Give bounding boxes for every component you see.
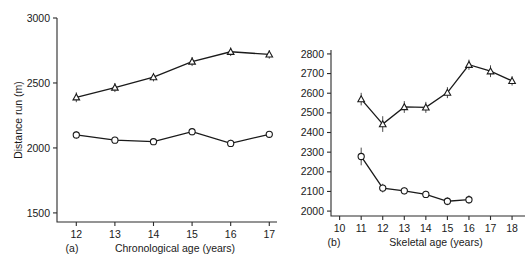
x-axis-tick-label: 14: [420, 222, 432, 234]
data-point-circle: [466, 197, 472, 203]
series-line-1: [76, 52, 269, 97]
y-axis-tick-label: 2300: [301, 146, 325, 158]
x-axis-tick-label: 12: [377, 222, 389, 234]
x-axis-tick-label: 16: [225, 228, 237, 240]
x-axis-title: Chronological age (years): [115, 242, 235, 254]
x-axis-tick-label: 13: [398, 222, 410, 234]
y-axis-tick-label: 2500: [301, 106, 325, 118]
x-axis-tick-label: 12: [70, 228, 82, 240]
panel-letter: (b): [328, 236, 341, 248]
data-point-circle: [73, 132, 79, 138]
data-point-circle: [150, 139, 156, 145]
data-point-circle: [228, 140, 234, 146]
x-axis-tick-label: 18: [506, 222, 518, 234]
y-axis-tick-label: 2400: [301, 126, 325, 138]
x-axis-tick-label: 13: [109, 228, 121, 240]
y-axis-tick-label: 2000: [27, 142, 51, 154]
panel-b-svg: 2000210022002300240025002600270028001011…: [266, 0, 532, 268]
y-axis-tick-label: 2700: [301, 67, 325, 79]
data-point-circle: [380, 185, 386, 191]
x-axis-tick-label: 16: [463, 222, 475, 234]
data-point-circle: [189, 129, 195, 135]
y-axis-tick-label: 2200: [301, 165, 325, 177]
chart-panel-a: 1500200025003000121314151617Chronologica…: [0, 0, 280, 268]
panel-a-svg: 1500200025003000121314151617Chronologica…: [0, 0, 280, 268]
chart-panel-b: 2000210022002300240025002600270028001011…: [266, 0, 532, 268]
series-line-2: [361, 156, 469, 201]
x-axis-tick-label: 11: [356, 222, 367, 234]
data-point-circle: [358, 153, 364, 159]
axis-lines: [331, 50, 525, 216]
x-axis-tick-label: 15: [442, 222, 454, 234]
y-axis-tick-label: 2800: [301, 48, 325, 60]
figure-container: 1500200025003000121314151617Chronologica…: [0, 0, 532, 268]
data-point-triangle: [466, 61, 473, 67]
x-axis-tick-label: 15: [186, 228, 198, 240]
data-point-circle: [444, 198, 450, 204]
panel-letter: (a): [66, 242, 79, 254]
y-axis-tick-label: 2100: [301, 185, 325, 197]
data-point-circle: [423, 191, 429, 197]
footer-note: [6, 261, 526, 268]
y-axis-tick-label: 2500: [27, 77, 51, 89]
x-axis-tick-label: 14: [148, 228, 160, 240]
data-point-circle: [401, 188, 407, 194]
y-axis-tick-label: 3000: [27, 12, 51, 24]
y-axis-title: Distance run (m): [12, 81, 24, 159]
axis-lines: [57, 18, 277, 222]
y-axis-tick-label: 2000: [301, 205, 325, 217]
x-axis-title: Skeletal age (years): [389, 236, 482, 248]
data-point-circle: [112, 137, 118, 143]
y-axis-tick-label: 2600: [301, 87, 325, 99]
y-axis-tick-label: 1500: [27, 207, 51, 219]
data-point-triangle: [358, 96, 365, 102]
x-axis-tick-label: 10: [334, 222, 346, 234]
x-axis-tick-label: 17: [485, 222, 497, 234]
series-line-2: [76, 132, 269, 144]
